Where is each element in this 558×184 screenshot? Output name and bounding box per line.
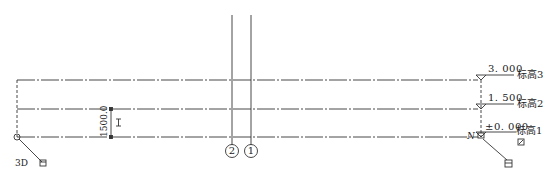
leader-line-right bbox=[483, 139, 507, 160]
dimension-value[interactable]: 1500.0 bbox=[100, 106, 109, 138]
view-3d-label: 3D bbox=[15, 159, 28, 168]
level-2-name[interactable]: 标高2 bbox=[517, 99, 543, 109]
north-marker: N bbox=[467, 132, 475, 141]
level-head-1[interactable] bbox=[476, 132, 516, 138]
level-1-name[interactable]: 标高1 bbox=[516, 126, 542, 136]
grid-label-1: 1 bbox=[244, 146, 258, 156]
level-3-name[interactable]: 标高3 bbox=[517, 70, 543, 80]
grid-label-2: 2 bbox=[225, 146, 239, 156]
level-head-2[interactable] bbox=[476, 104, 514, 109]
level-head-3[interactable] bbox=[476, 75, 514, 80]
lock-icon-right[interactable] bbox=[505, 160, 512, 167]
dimension-lock-icon[interactable] bbox=[116, 119, 121, 126]
elevation-canvas[interactable] bbox=[0, 0, 558, 184]
